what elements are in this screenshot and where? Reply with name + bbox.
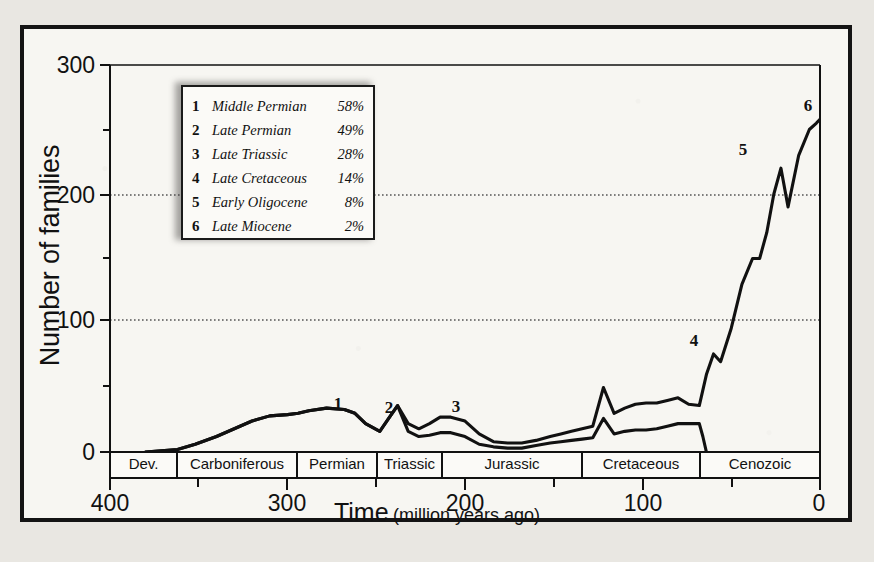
legend-percent: 28% bbox=[330, 142, 364, 166]
legend-row: 3 Late Triassic 28% bbox=[192, 142, 364, 166]
event-marker-6: 6 bbox=[800, 96, 816, 116]
legend-event-name: Late Triassic bbox=[212, 142, 330, 166]
event-marker-3: 3 bbox=[448, 397, 464, 417]
period-label-devonian: Dev. bbox=[110, 453, 177, 475]
legend-event-name: Early Oligocene bbox=[212, 190, 330, 214]
legend-percent: 14% bbox=[330, 166, 364, 190]
y-axis-title: Number of families bbox=[35, 56, 66, 456]
event-marker-1: 1 bbox=[330, 394, 346, 414]
legend-number: 2 bbox=[192, 118, 212, 142]
legend-number: 3 bbox=[192, 142, 212, 166]
period-label-permian: Permian bbox=[297, 453, 377, 475]
legend-event-name: Late Permian bbox=[212, 118, 330, 142]
legend-event-name: Middle Permian bbox=[212, 94, 330, 118]
period-label-triassic: Triassic bbox=[377, 453, 442, 475]
legend-row: 2 Late Permian 49% bbox=[192, 118, 364, 142]
legend-percent: 8% bbox=[330, 190, 364, 214]
series-lower bbox=[146, 406, 707, 452]
period-label-cenozoic: Cenozoic bbox=[700, 453, 820, 475]
x-axis-ticks bbox=[110, 478, 820, 490]
period-label-carboniferous: Carboniferous bbox=[177, 453, 297, 475]
period-label-cretaceous: Cretaceous bbox=[582, 453, 700, 475]
legend-row: 1 Middle Permian 58% bbox=[192, 94, 364, 118]
legend-row: 4 Late Cretaceous 14% bbox=[192, 166, 364, 190]
x-axis-title-sub: (million years ago) bbox=[393, 505, 540, 525]
legend-box: 1 Middle Permian 58% 2 Late Permian 49% … bbox=[181, 85, 375, 240]
legend-percent: 2% bbox=[330, 214, 364, 238]
event-marker-5: 5 bbox=[735, 140, 751, 160]
legend-percent: 58% bbox=[330, 94, 364, 118]
legend-event-name: Late Cretaceous bbox=[212, 166, 330, 190]
event-marker-2: 2 bbox=[381, 398, 397, 418]
legend-event-name: Late Miocene bbox=[212, 214, 330, 238]
event-marker-4: 4 bbox=[686, 331, 702, 351]
legend-row: 5 Early Oligocene 8% bbox=[192, 190, 364, 214]
period-label-jurassic: Jurassic bbox=[442, 453, 582, 475]
figure-page: 300 200 100 0 400 300 200 100 0 Dev. Car… bbox=[0, 0, 874, 562]
legend-number: 5 bbox=[192, 190, 212, 214]
legend-number: 4 bbox=[192, 166, 212, 190]
x-axis-title-main: Time bbox=[334, 498, 389, 526]
legend-row: 6 Late Miocene 2% bbox=[192, 214, 364, 238]
chart-canvas bbox=[0, 0, 874, 562]
legend-number: 6 bbox=[192, 214, 212, 238]
legend-number: 1 bbox=[192, 94, 212, 118]
x-axis-title: Time (million years ago) bbox=[0, 498, 874, 527]
legend-percent: 49% bbox=[330, 118, 364, 142]
y-axis-ticks bbox=[100, 65, 110, 452]
